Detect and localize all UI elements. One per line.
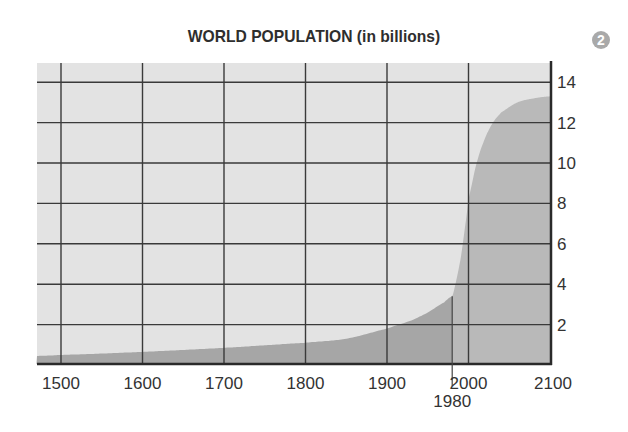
y-tick-label: 8 bbox=[557, 194, 566, 213]
y-tick-label: 4 bbox=[557, 275, 566, 294]
x-tick-label: 1800 bbox=[287, 374, 325, 393]
x-tick-label: 2100 bbox=[534, 374, 572, 393]
x-tick-label: 2000 bbox=[450, 374, 488, 393]
x-tick-label: 1600 bbox=[124, 374, 162, 393]
x-tick-label: 1500 bbox=[42, 374, 80, 393]
y-tick-label: 2 bbox=[557, 316, 566, 335]
year-1980-label: 1980 bbox=[433, 392, 471, 411]
y-tick-label: 12 bbox=[557, 114, 576, 133]
x-tick-label: 1700 bbox=[205, 374, 243, 393]
y-tick-label: 14 bbox=[557, 73, 576, 92]
x-tick-label: 1900 bbox=[368, 374, 406, 393]
population-chart: 1980150016001700180019002000210024681012… bbox=[0, 0, 628, 432]
y-tick-label: 6 bbox=[557, 235, 566, 254]
y-tick-label: 10 bbox=[557, 154, 576, 173]
